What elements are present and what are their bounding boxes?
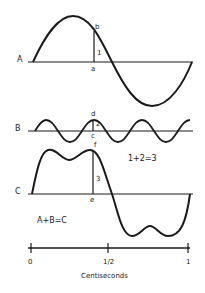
point-c-label: c [91,133,95,140]
segment-2-label: 2 [96,121,100,128]
time-axis-title: Centiseconds [81,273,128,280]
wave-c-label: C [15,188,21,196]
tick-label-1: 1 [186,259,190,266]
wave-a-label: A [17,56,22,64]
wave-a-curve [33,16,192,106]
waveform-diagram [0,0,205,293]
segment-sum-equation: 1+2=3 [128,155,157,163]
point-e-label: e [90,197,94,204]
wave-sum-equation: A+B=C [37,217,67,225]
point-f-label: f [94,142,96,149]
point-a-label: a [91,66,95,73]
tick-label-half: 1/2 [103,259,114,266]
segment-1-label: 1 [97,50,101,57]
point-b-label: b [95,24,99,31]
point-d-label: d [91,111,95,118]
wave-b-label: B [15,125,21,133]
tick-label-0: 0 [28,259,32,266]
segment-3-label: 3 [96,176,100,183]
